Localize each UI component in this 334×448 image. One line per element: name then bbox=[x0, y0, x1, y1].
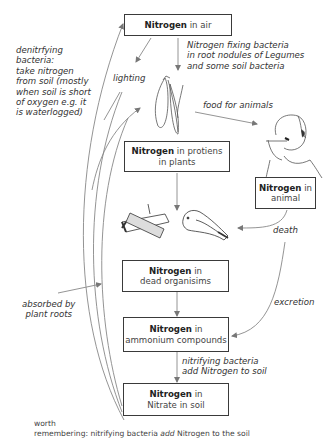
footer-line2: remembering: nitrifying bacteria add Nit… bbox=[34, 429, 250, 439]
lighting-arrow bbox=[136, 38, 151, 62]
box-nitrogen-in-nitrate: Nitrogen in Nitrate in soil bbox=[123, 383, 229, 416]
box-ammonium-bold: Nitrogen bbox=[149, 324, 192, 334]
box-dead-bold: Nitrogen bbox=[149, 266, 192, 276]
box-nitrate-rest: in bbox=[192, 389, 203, 399]
label-line: of oxygen e.g. it bbox=[16, 97, 91, 107]
label-line: when soil is short bbox=[16, 87, 91, 97]
label-line: bacteria: bbox=[16, 55, 91, 65]
box-nitrogen-in-ammonium: Nitrogen in ammonium compounds bbox=[123, 317, 229, 352]
box-nitrogen-in-plants: Nitrogen in protiens in plants bbox=[124, 141, 230, 172]
box-nitrogen-in-air: Nitrogen in air bbox=[124, 14, 232, 36]
box-nitrogen-in-animal: Nitrogen in animal bbox=[255, 177, 316, 209]
box-plants-bold: Nitrogen bbox=[132, 146, 175, 156]
label-line: take nitrogen bbox=[16, 66, 91, 76]
label-absorbed-by-plant-roots: absorbed by plant roots bbox=[22, 299, 75, 320]
box-dead-rest: in bbox=[191, 266, 202, 276]
dead-wood-icon bbox=[122, 204, 169, 238]
box-nitrogen-in-dead-organisms: Nitrogen in dead organisims bbox=[122, 260, 229, 292]
person-eating-icon bbox=[266, 115, 322, 180]
label-line: from soil (mostly bbox=[16, 76, 91, 86]
box-ammonium-line2: ammonium compounds bbox=[125, 335, 227, 346]
box-plants-rest: in protiens bbox=[174, 146, 222, 156]
absorbed-curve-1 bbox=[93, 92, 122, 412]
label-line: in root nodules of Legumes bbox=[187, 50, 304, 60]
box-dead-line2: dead organisims bbox=[140, 276, 211, 287]
box-animal-bold: Nitrogen bbox=[259, 183, 302, 193]
footer-note: worth remembering: nitrifying bacteria a… bbox=[34, 419, 250, 438]
label-food-for-animals: food for animals bbox=[203, 100, 273, 110]
label-line: nitrifying bacteria bbox=[182, 356, 267, 366]
plant-icon bbox=[155, 76, 183, 134]
box-animal-line2: animal bbox=[271, 193, 300, 204]
footer-line1: worth bbox=[34, 419, 250, 429]
food-arrow bbox=[195, 112, 257, 124]
footer-line2-post: Nitrogen to the soil bbox=[175, 429, 250, 438]
dead-bird-icon bbox=[183, 210, 228, 240]
label-line: absorbed by bbox=[22, 299, 75, 309]
label-line: Nitrogen fixing bacteria bbox=[187, 40, 304, 50]
box-nitrate-bold: Nitrogen bbox=[149, 389, 192, 399]
label-line: plant roots bbox=[22, 309, 75, 319]
box-air-rest: in air bbox=[187, 20, 212, 30]
box-plants-line2: in plants bbox=[159, 157, 196, 168]
box-animal-rest: in bbox=[301, 183, 312, 193]
box-ammonium-rest: in bbox=[192, 324, 203, 334]
label-denitrifying-bacteria: denitrfying bacteria: take nitrogen from… bbox=[16, 45, 91, 118]
label-line: add Nitrogen to soil bbox=[182, 366, 267, 376]
label-line: is waterlogged) bbox=[16, 107, 91, 117]
label-nitrifying-bacteria: nitrifying bacteria add Nitrogen to soil bbox=[182, 356, 267, 377]
excretion-arrow bbox=[232, 242, 285, 336]
label-line: denitrfying bbox=[16, 45, 91, 55]
box-nitrate-line2: Nitrate in soil bbox=[147, 400, 204, 411]
label-death: death bbox=[273, 225, 298, 235]
label-line: and some soil bacteria bbox=[187, 61, 304, 71]
lighting-line bbox=[104, 92, 120, 120]
label-lighting: lighting bbox=[113, 73, 145, 83]
label-nitrogen-fixing: Nitrogen fixing bacteria in root nodules… bbox=[187, 40, 304, 71]
footer-line2-emphasis: add bbox=[160, 429, 174, 438]
footer-line2-pre: remembering: nitrifying bacteria bbox=[34, 429, 160, 438]
label-excretion: excretion bbox=[274, 297, 314, 307]
box-air-bold: Nitrogen bbox=[145, 20, 188, 30]
